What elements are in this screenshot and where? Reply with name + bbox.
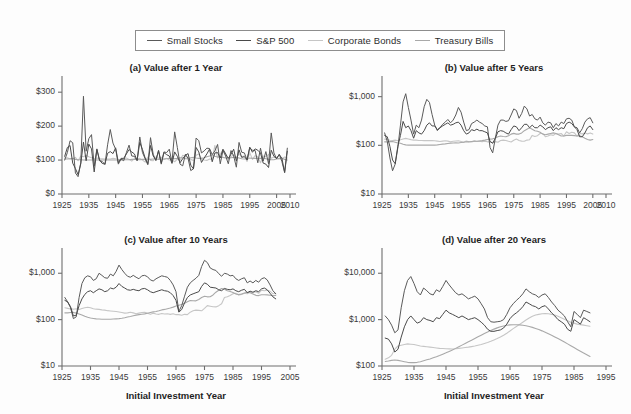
legend-item-small-stocks: Small Stocks bbox=[147, 35, 223, 46]
panel-value-after-20-years: (d) Value after 20 Years$100$1,000$10,00… bbox=[316, 232, 631, 407]
x-axis-label: Initial Investment Year bbox=[382, 390, 606, 401]
figure-root: Small Stocks S&P 500 Corporate Bonds Tre… bbox=[0, 0, 631, 414]
legend-swatch-corporate-bonds bbox=[308, 40, 323, 41]
panel-value-after-10-years: (c) Value after 10 Years$10$100$1,000192… bbox=[0, 232, 315, 407]
series-line bbox=[385, 325, 590, 363]
series-line bbox=[65, 283, 276, 316]
legend-item-treasury-bills: Treasury Bills bbox=[415, 35, 494, 46]
series-line bbox=[65, 96, 288, 176]
legend-label-small-stocks: Small Stocks bbox=[167, 35, 223, 46]
legend-swatch-small-stocks bbox=[147, 40, 162, 41]
plot-area bbox=[0, 232, 315, 407]
panel-value-after-5-years: (b) Value after 5 Years$10$100$1,0001925… bbox=[316, 60, 631, 210]
plot-area bbox=[0, 60, 315, 210]
series-line bbox=[65, 290, 276, 315]
chart-legend: Small Stocks S&P 500 Corporate Bonds Tre… bbox=[135, 30, 505, 51]
plot-area bbox=[316, 60, 631, 210]
legend-label-sp500: S&P 500 bbox=[256, 35, 294, 46]
legend-item-corporate-bonds: Corporate Bonds bbox=[308, 35, 401, 46]
plot-area bbox=[316, 232, 631, 407]
legend-swatch-treasury-bills bbox=[415, 40, 430, 41]
legend-item-sp500: S&P 500 bbox=[236, 35, 294, 46]
legend-label-treasury-bills: Treasury Bills bbox=[435, 35, 494, 46]
legend-swatch-sp500 bbox=[236, 40, 251, 41]
x-axis-label: Initial Investment Year bbox=[62, 390, 290, 401]
series-line bbox=[385, 277, 590, 333]
panel-value-after-1-year: (a) Value after 1 Year$0$100$200$3001925… bbox=[0, 60, 315, 210]
legend-label-corporate-bonds: Corporate Bonds bbox=[328, 35, 401, 46]
